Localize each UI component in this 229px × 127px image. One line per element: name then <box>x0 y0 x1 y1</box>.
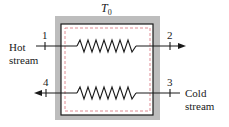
hot-outlet-arrow-icon <box>178 43 186 49</box>
exchanger-boundary <box>61 24 153 115</box>
state-3-label: 3 <box>167 77 173 88</box>
state-1-label: 1 <box>42 30 48 41</box>
hot-stream-label-line2: stream <box>9 55 38 66</box>
state-2-label: 2 <box>167 30 173 41</box>
hot-stream-label-line1: Hot <box>9 42 38 53</box>
state-4-label: 4 <box>43 77 49 88</box>
cold-stream-label-line2: stream <box>185 101 214 112</box>
temperature-symbol: T <box>101 1 108 15</box>
temperature-subscript: 0 <box>108 8 112 17</box>
cold-stream-label: Cold stream <box>185 88 214 112</box>
cold-outlet-arrow-icon <box>34 90 42 96</box>
hot-stream-label: Hot stream <box>9 42 38 66</box>
ambient-temperature-label: T0 <box>101 3 112 18</box>
cold-stream-label-line1: Cold <box>185 88 214 99</box>
